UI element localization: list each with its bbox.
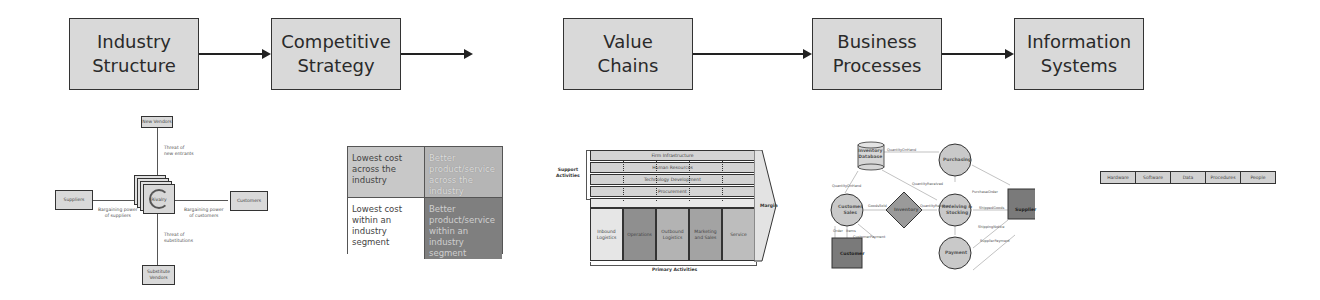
suppliers-box: Suppliers	[55, 190, 93, 210]
flow-label: Order	[833, 228, 843, 234]
purchasing-label: Purchasing	[943, 157, 971, 163]
arrow-icon	[199, 53, 269, 55]
label-line: Logistics	[663, 235, 682, 241]
customer-label: Customer	[840, 251, 864, 257]
label-line: Logistics	[597, 235, 616, 241]
is-component-procedures: Procedures	[1206, 172, 1241, 183]
is-component-data: Data	[1171, 172, 1206, 183]
strategy-cell-cost-segment: Lowest cost within an industry segment	[348, 198, 425, 259]
primary-activities-label: Primary Activities	[652, 267, 697, 273]
new-vendors-box: New Vendors	[141, 116, 173, 128]
label-line: Operations	[627, 232, 652, 238]
label-line: Activities	[556, 173, 580, 179]
primary-operations: Operations	[623, 208, 656, 261]
label-line: and Sales	[695, 235, 717, 241]
substitute-label: Vendors	[149, 275, 167, 281]
label-line: Sales	[838, 210, 862, 216]
flow-step-industry-structure: Industry Structure	[69, 18, 199, 90]
flow-label: SupplierPayment	[980, 238, 1010, 244]
flow-label: ShippedGoods	[979, 205, 1004, 211]
label-line: Database	[858, 154, 882, 160]
flow-step-label: Strategy	[297, 54, 374, 78]
support-firm-infrastructure: Firm Infrastructure	[590, 150, 755, 161]
support-spacer	[590, 198, 755, 208]
support-activities-label: Support Activities	[556, 167, 580, 179]
diagram-canvas: Industry Structure Competitive Strategy …	[0, 0, 1320, 300]
label-line: of customers	[184, 213, 224, 219]
flow-step-label: Processes	[833, 54, 922, 78]
flow-label: ShippingNotice	[978, 224, 1004, 230]
bargaining-suppliers-label: Bargaining power of suppliers	[98, 207, 138, 219]
flow-step-information-systems: Information Systems	[1014, 18, 1144, 90]
primary-bracket	[590, 262, 757, 266]
primary-inbound-logistics: Inbound Logistics	[590, 208, 623, 261]
customers-label: Customers	[237, 198, 261, 204]
support-procurement: Procurement	[590, 186, 755, 197]
threat-substitutions-label: Threat of substitutions	[164, 232, 193, 244]
flow-label: QuantityReceived	[912, 181, 943, 187]
flow-step-label: Business	[837, 30, 916, 54]
divider	[656, 161, 657, 201]
inventory-database-label: Inventory Database	[858, 148, 882, 160]
cycle-icon	[149, 189, 169, 209]
flow-label: QuantityOnHand	[832, 183, 861, 189]
primary-service: Service	[722, 208, 755, 261]
support-technology-development: Technology Development	[590, 174, 755, 185]
divider	[689, 161, 690, 201]
customers-box: Customers	[230, 191, 268, 211]
flow-step-business-processes: Business Processes	[812, 18, 942, 90]
flow-step-competitive-strategy: Competitive Strategy	[271, 18, 401, 90]
strategy-cell-cost-industry: Lowest cost across the industry	[348, 147, 425, 198]
label-line: Service	[730, 232, 747, 238]
divider	[722, 161, 723, 201]
flow-step-label: Value	[603, 30, 652, 54]
arrow-icon	[693, 53, 810, 55]
flow-step-label: Structure	[92, 54, 176, 78]
rival-card-front: Rivalry	[143, 184, 175, 214]
customer-sales-label: Customer Sales	[838, 204, 862, 216]
is-component-software: Software	[1136, 172, 1171, 183]
is-components-bar: Hardware Software Data Procedures People	[1100, 171, 1276, 184]
is-component-people: People	[1241, 172, 1275, 183]
flow-step-value-chains: Value Chains	[563, 18, 693, 90]
flow-label: QuantityReceived	[920, 203, 951, 209]
flow-step-label: Competitive	[281, 30, 390, 54]
primary-marketing-sales: Marketing and Sales	[689, 208, 722, 261]
strategy-cell-differentiation-segment: Better product/service within an industr…	[425, 198, 502, 259]
threat-new-entrants-label: Threat of new entrants	[164, 145, 194, 157]
rivals-stack: Rivalry	[134, 175, 174, 215]
flow-step-label: Systems	[1041, 54, 1118, 78]
support-human-resources: Human Resources	[590, 162, 755, 173]
flow-label: PurchaseOrder	[972, 189, 998, 195]
flow-step-label: Chains	[598, 54, 659, 78]
flow-step-label: Information	[1027, 30, 1131, 54]
flow-label: CustomerPayment	[853, 234, 885, 240]
label-line: new entrants	[164, 151, 194, 157]
strategy-grid: Lowest cost across the industry Better p…	[347, 146, 503, 254]
arrow-icon	[401, 53, 471, 55]
suppliers-label: Suppliers	[64, 197, 85, 203]
new-vendors-label: New Vendors	[142, 119, 171, 125]
divider	[623, 161, 624, 201]
bargaining-customers-label: Bargaining power of customers	[184, 207, 224, 219]
inventory-label: Inventory	[894, 207, 918, 213]
label-line: of suppliers	[98, 213, 138, 219]
primary-outbound-logistics: Outbound Logistics	[656, 208, 689, 261]
is-component-hardware: Hardware	[1101, 172, 1136, 183]
payment-label: Payment	[945, 250, 967, 256]
margin-label: Margin	[760, 203, 778, 209]
supplier-label: Supplier	[1015, 207, 1036, 213]
flow-label: QuantityOnHand	[887, 147, 916, 153]
flow-step-label: Industry	[97, 30, 171, 54]
label-line: substitutions	[164, 238, 193, 244]
label-line: Stocking	[942, 210, 972, 216]
substitute-vendors-box: Substitute Vendors	[142, 265, 175, 285]
flow-label: GoodsSold	[868, 203, 887, 209]
strategy-cell-differentiation-industry: Better product/service across the indust…	[425, 147, 502, 198]
arrow-icon	[942, 53, 1012, 55]
